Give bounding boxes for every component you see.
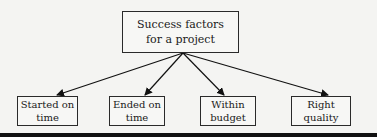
root-label-line1: Success factors [137,17,224,32]
node-label-line2: time [21,111,75,124]
node-label-line1: Started on [21,98,75,111]
bottom-rule [0,133,377,137]
node-label-line2: time [113,111,161,124]
node-started-on-time: Started on time [17,96,78,126]
node-ended-on-time: Ended on time [109,96,165,126]
node-label-line2: quality [304,111,339,124]
node-right-quality: Right quality [291,96,351,126]
node-label-line2: budget [210,111,246,124]
node-label-line1: Within [210,98,246,111]
root-node: Success factors for a project [122,11,239,53]
node-label-line1: Ended on [113,98,161,111]
node-label-line1: Right [304,98,339,111]
node-within-budget: Within budget [200,96,256,126]
root-label-line2: for a project [137,32,224,47]
